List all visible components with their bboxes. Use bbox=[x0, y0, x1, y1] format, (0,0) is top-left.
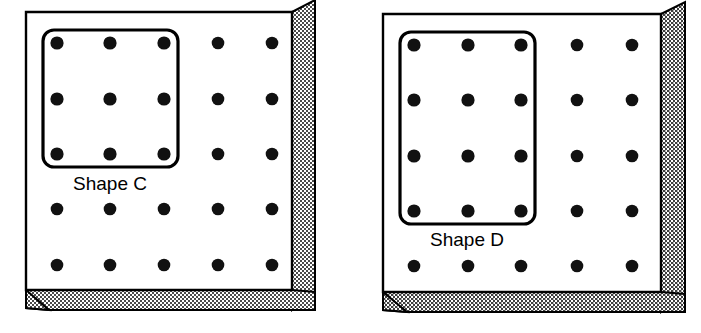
board-d-right-bevel bbox=[661, 2, 685, 312]
peg bbox=[157, 147, 170, 160]
peg bbox=[266, 148, 279, 161]
peg bbox=[514, 38, 527, 51]
peg bbox=[212, 148, 225, 161]
peg bbox=[462, 260, 475, 273]
peg bbox=[212, 93, 225, 106]
peg bbox=[212, 259, 225, 272]
peg bbox=[571, 205, 584, 218]
peg bbox=[103, 36, 116, 49]
peg bbox=[51, 259, 64, 272]
peg bbox=[571, 39, 584, 52]
peg bbox=[50, 147, 63, 160]
board-c-bottom-bevel bbox=[26, 290, 315, 310]
peg bbox=[514, 204, 527, 217]
board-d-group: Shape D bbox=[383, 2, 685, 312]
peg bbox=[212, 203, 225, 216]
pegboard-diagram-canvas: Shape C bbox=[0, 0, 701, 333]
pegboard-figure: Shape C bbox=[0, 0, 701, 333]
peg bbox=[626, 205, 639, 218]
peg bbox=[407, 204, 420, 217]
peg bbox=[104, 259, 117, 272]
shape-c-label: Shape C bbox=[73, 173, 147, 194]
board-d-bottom-bevel bbox=[383, 292, 685, 312]
peg bbox=[158, 259, 171, 272]
peg bbox=[266, 37, 279, 50]
peg bbox=[514, 149, 527, 162]
peg bbox=[157, 92, 170, 105]
peg bbox=[626, 94, 639, 107]
peg bbox=[408, 260, 421, 273]
peg bbox=[266, 203, 279, 216]
peg bbox=[50, 92, 63, 105]
peg bbox=[212, 37, 225, 50]
peg bbox=[157, 36, 170, 49]
peg bbox=[626, 39, 639, 52]
peg bbox=[103, 147, 116, 160]
peg bbox=[571, 150, 584, 163]
peg bbox=[104, 203, 117, 216]
peg bbox=[266, 93, 279, 106]
peg bbox=[626, 260, 639, 273]
peg bbox=[50, 36, 63, 49]
peg bbox=[158, 203, 171, 216]
peg bbox=[514, 93, 527, 106]
board-c-right-bevel bbox=[292, 0, 315, 310]
peg bbox=[461, 204, 474, 217]
peg bbox=[51, 203, 64, 216]
peg bbox=[626, 150, 639, 163]
peg bbox=[407, 149, 420, 162]
peg bbox=[515, 260, 528, 273]
peg bbox=[571, 260, 584, 273]
peg bbox=[571, 94, 584, 107]
peg bbox=[103, 92, 116, 105]
peg bbox=[407, 38, 420, 51]
peg bbox=[461, 149, 474, 162]
peg bbox=[266, 259, 279, 272]
peg bbox=[407, 93, 420, 106]
shape-d-label: Shape D bbox=[430, 229, 504, 250]
peg bbox=[461, 93, 474, 106]
board-c-group: Shape C bbox=[26, 0, 315, 310]
peg bbox=[461, 38, 474, 51]
